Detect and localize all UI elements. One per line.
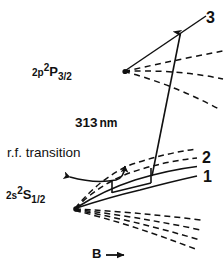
upper-level-manifold xyxy=(122,16,223,109)
upper-sublevel-solid xyxy=(124,16,206,72)
diagram-canvas xyxy=(0,0,224,272)
rf-transition-label: r.f. transition xyxy=(7,146,81,160)
lower-sublevel-dashed-lower-4 xyxy=(75,211,198,251)
rf-transition-arrow xyxy=(70,166,125,181)
lower-sublevel-dashed-upper-2 xyxy=(75,158,197,209)
wavelength-unit: nm xyxy=(100,116,118,130)
lower-term-prefix: 2s xyxy=(6,190,17,201)
upper-manifold-vertex xyxy=(122,69,127,74)
rf-arrow-curve xyxy=(70,166,125,181)
interval-baseline xyxy=(112,183,151,193)
lower-sublevel-dashed-lower-2 xyxy=(75,210,201,231)
wavelength-value: 313 xyxy=(75,115,98,130)
lower-term-label: 2s2S1/2 xyxy=(6,186,45,205)
wavelength-label: 313nm xyxy=(75,116,118,130)
level-2-label: 2 xyxy=(202,150,211,166)
lower-manifold-vertex xyxy=(73,206,79,212)
upper-term-label: 2p2P3/2 xyxy=(32,63,72,82)
lower-term-j: 1/2 xyxy=(31,194,45,205)
energy-level-diagram: 2p2P3/2 313nm r.f. transition 2s2S1/2 3 … xyxy=(0,0,224,272)
b-field-label: B xyxy=(92,247,101,260)
level-1-label: 1 xyxy=(203,169,212,185)
level-3-label: 3 xyxy=(206,10,215,26)
excitation-arrow-313nm xyxy=(152,33,181,176)
upper-term-j: 3/2 xyxy=(58,71,72,82)
upper-term-prefix: 2p xyxy=(32,67,44,78)
lower-sublevel-dashed-upper-1 xyxy=(75,149,197,209)
lower-sublevel-dashed-lower-3 xyxy=(75,210,200,240)
upper-term-symbol: P xyxy=(49,64,58,79)
lower-level-manifold xyxy=(73,149,201,250)
